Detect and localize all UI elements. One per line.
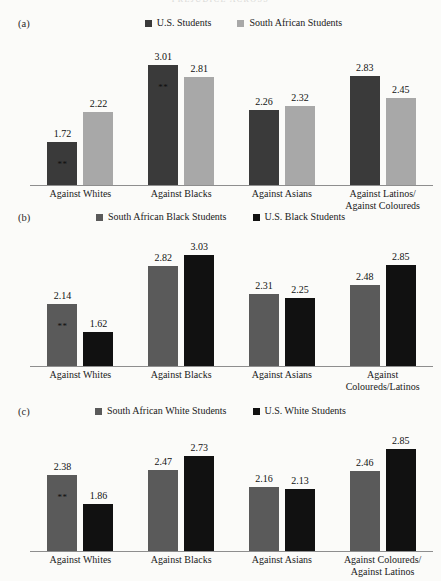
bar[interactable] (350, 471, 380, 551)
bar-group: 2.312.25 (232, 232, 333, 366)
bar-column: 2.31 (249, 232, 279, 366)
legend-label: U.S. White Students (265, 406, 346, 416)
bar-group: 3.01**2.81 (131, 40, 232, 185)
bar-value-label: 2.85 (392, 252, 410, 262)
legend-label: South African White Students (107, 406, 227, 416)
bar-value-label: 2.25 (291, 285, 309, 295)
bar-column: 2.46 (350, 426, 380, 551)
bar[interactable] (83, 504, 113, 551)
bar[interactable]: ** (47, 475, 77, 551)
legend-swatch-south-african-students (237, 20, 244, 27)
category-label-line: Against Asians (234, 188, 331, 200)
category-label-line: Against Coloureds (334, 200, 431, 212)
bar-value-label: 3.03 (190, 242, 208, 252)
category-label-line: Against Whites (32, 554, 129, 566)
bar[interactable] (184, 77, 214, 185)
bar-column: 2.85 (386, 426, 416, 551)
legend-swatch-us-students (145, 20, 152, 27)
bar[interactable] (350, 76, 380, 185)
bar-value-label: 1.72 (54, 129, 72, 139)
bar[interactable] (386, 265, 416, 366)
panel-c: (c) South African White StudentsU.S. Whi… (0, 406, 441, 581)
bar[interactable] (285, 489, 315, 551)
bar-column: 3.01** (148, 40, 178, 185)
bar-group: 2.472.73 (131, 426, 232, 551)
legend-item: South African Black Students (96, 212, 227, 222)
legend-label: South African Students (249, 18, 342, 28)
bar-column: 2.16 (249, 426, 279, 551)
bar-column: 2.82 (148, 232, 178, 366)
category-label-line: Against Latinos/ (334, 188, 431, 200)
category-label-line: Against Blacks (133, 188, 230, 200)
bar-value-label: 2.82 (154, 253, 172, 263)
category-label: Against Asians (232, 554, 333, 578)
bar-group: 2.832.45 (332, 40, 433, 185)
bar[interactable] (249, 110, 279, 185)
bar[interactable] (386, 449, 416, 551)
panel-c-category-labels: Against WhitesAgainst BlacksAgainst Asia… (30, 554, 433, 578)
bar-column: 2.73 (184, 426, 214, 551)
bar-value-label: 2.38 (54, 462, 72, 472)
bar-value-label: 1.62 (90, 319, 108, 329)
bar-column: 2.22 (83, 40, 113, 185)
legend-swatch-sa-white-students (95, 408, 102, 415)
bar-column: 2.48 (350, 232, 380, 366)
significance-marker: ** (47, 493, 77, 502)
bar-column: 2.85 (386, 232, 416, 366)
bar[interactable] (83, 332, 113, 366)
bar-value-label: 2.73 (190, 443, 208, 453)
bar-column: 2.83 (350, 40, 380, 185)
legend-swatch-us-white-students (253, 408, 260, 415)
panel-a-legend: U.S. StudentsSouth African Students (0, 18, 441, 28)
bar[interactable] (184, 255, 214, 366)
bar[interactable] (148, 470, 178, 551)
bar-value-label: 2.26 (255, 97, 273, 107)
bar[interactable] (285, 106, 315, 185)
bar[interactable] (285, 298, 315, 366)
bar-value-label: 2.22 (90, 99, 108, 109)
category-label: Against Asians (232, 188, 333, 212)
bar[interactable] (83, 112, 113, 185)
panel-a: (a) U.S. StudentsSouth African Students … (0, 18, 441, 213)
panel-b: (b) South African Black StudentsU.S. Bla… (0, 212, 441, 402)
legend-item: South African White Students (95, 406, 227, 416)
bar-column: 2.25 (285, 232, 315, 366)
bar[interactable] (249, 487, 279, 551)
panel-c-legend: South African White StudentsU.S. White S… (0, 406, 441, 416)
bar-value-label: 3.01 (154, 52, 172, 62)
bar[interactable]: ** (47, 142, 77, 185)
bar[interactable] (184, 456, 214, 551)
legend-swatch-us-black-students (253, 214, 260, 221)
panel-a-axis-line (30, 185, 433, 186)
category-label-line: Against Whites (32, 369, 129, 381)
category-label: Against Latinos/Against Coloureds (332, 188, 433, 212)
category-label-line: Against Coloureds/ (334, 554, 431, 566)
bar-column: 2.32 (285, 40, 315, 185)
panel-b-legend: South African Black StudentsU.S. Black S… (0, 212, 441, 222)
legend-label: U.S. Students (157, 18, 212, 28)
bar[interactable] (249, 294, 279, 366)
bar[interactable] (148, 266, 178, 366)
bar[interactable]: ** (47, 304, 77, 366)
bar[interactable]: ** (148, 65, 178, 185)
bar-column: 2.81 (184, 40, 214, 185)
bar-column: 3.03 (184, 232, 214, 366)
category-label-line: Against Coloureds/Latinos (334, 369, 431, 393)
category-label-line: Against Asians (234, 369, 331, 381)
legend-item: U.S. Students (145, 18, 212, 28)
category-label: Against Whites (30, 188, 131, 212)
category-label-line: Against Blacks (133, 554, 230, 566)
bar-value-label: 2.13 (291, 476, 309, 486)
legend-item: U.S. White Students (253, 406, 346, 416)
bar-group: 2.823.03 (131, 232, 232, 366)
category-label: Against Blacks (131, 554, 232, 578)
panel-b-axis-line (30, 366, 433, 367)
bar-column: 2.38** (47, 426, 77, 551)
bar[interactable] (350, 285, 380, 366)
bar-group: 2.162.13 (232, 426, 333, 551)
bar-column: 1.72** (47, 40, 77, 185)
category-label: Against Coloureds/Against Latinos (332, 554, 433, 578)
bar[interactable] (386, 98, 416, 185)
panel-b-category-labels: Against WhitesAgainst BlacksAgainst Asia… (30, 369, 433, 393)
bar-group: 2.38**1.86 (30, 426, 131, 551)
